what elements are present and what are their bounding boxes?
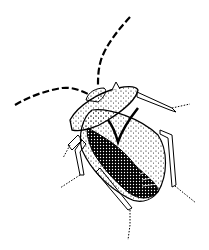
shield-bug-illustration	[0, 0, 209, 250]
antenna-left	[15, 88, 88, 105]
illustration-canvas: Shield bug illustration	[0, 0, 209, 250]
antenna-right	[98, 17, 130, 86]
